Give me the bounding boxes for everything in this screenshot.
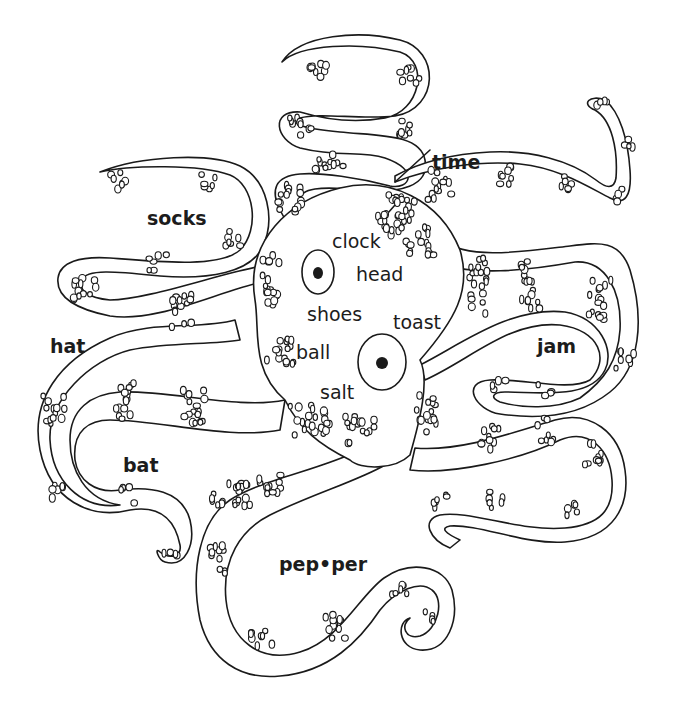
sucker	[278, 192, 283, 197]
sucker	[398, 129, 404, 137]
sucker	[431, 195, 436, 203]
sucker	[345, 420, 350, 425]
sucker	[298, 132, 304, 139]
sucker-patch	[307, 60, 329, 80]
sucker	[126, 484, 133, 491]
sucker	[497, 181, 504, 187]
sucker	[343, 413, 348, 420]
sucker	[311, 405, 315, 412]
sucker	[119, 487, 124, 494]
sucker	[407, 122, 413, 128]
sucker	[216, 502, 220, 508]
sucker	[288, 403, 292, 409]
sucker	[312, 165, 319, 172]
sucker	[201, 395, 208, 402]
sucker	[519, 264, 524, 270]
sucker	[619, 348, 623, 356]
sucker-patch	[497, 163, 514, 187]
sucker	[435, 497, 440, 503]
sucker	[536, 382, 540, 388]
sucker	[395, 199, 401, 207]
sucker	[407, 130, 412, 136]
sucker	[309, 422, 315, 430]
sucker	[500, 173, 506, 179]
label-toast: toast	[393, 313, 441, 332]
sucker	[405, 197, 410, 203]
label-clock: clock	[332, 232, 381, 251]
sucker	[292, 432, 297, 438]
sucker	[292, 206, 298, 212]
sucker	[536, 299, 540, 305]
sucker	[201, 181, 208, 186]
sucker	[276, 479, 282, 485]
sucker	[483, 310, 488, 318]
sucker	[193, 403, 200, 408]
sucker	[120, 181, 125, 188]
sucker	[289, 336, 294, 344]
sucker	[306, 412, 313, 419]
sucker	[155, 252, 161, 260]
sucker	[337, 616, 342, 624]
label-time: time	[432, 153, 480, 172]
sucker	[257, 475, 262, 483]
sucker	[614, 198, 621, 205]
sucker	[418, 416, 424, 424]
label-head: head	[356, 265, 403, 284]
sucker	[265, 356, 270, 364]
sucker	[480, 300, 485, 305]
sucker	[49, 486, 56, 493]
sucker-patch	[169, 291, 194, 330]
sucker	[480, 290, 487, 297]
sucker	[562, 178, 568, 185]
sucker	[597, 285, 603, 292]
sucker	[399, 118, 405, 124]
sucker	[111, 175, 116, 182]
sucker	[277, 338, 283, 345]
sucker	[283, 358, 289, 365]
sucker	[323, 613, 328, 621]
sucker	[525, 297, 530, 305]
sucker	[431, 416, 437, 423]
sucker	[595, 458, 601, 463]
sucker	[41, 393, 46, 399]
sucker	[487, 500, 492, 506]
sucker	[583, 461, 588, 468]
sucker	[329, 635, 334, 641]
sucker	[565, 512, 569, 519]
sucker-patch	[312, 151, 346, 174]
sucker	[399, 225, 404, 231]
sucker	[275, 199, 282, 205]
sucker	[487, 489, 493, 494]
sucker	[426, 399, 431, 405]
sucker-patch	[414, 392, 438, 435]
sucker	[277, 472, 284, 478]
sucker	[242, 502, 247, 510]
sucker	[413, 80, 419, 87]
sucker	[407, 217, 411, 223]
sucker	[182, 321, 187, 327]
sucker	[631, 350, 637, 358]
sucker	[227, 229, 233, 235]
sucker	[255, 642, 259, 650]
sucker	[210, 495, 215, 503]
sucker	[187, 296, 194, 303]
sucker	[242, 494, 249, 502]
sucker	[486, 437, 493, 444]
sucker	[330, 151, 336, 159]
sucker	[423, 224, 427, 231]
sucker	[269, 640, 275, 648]
sucker	[162, 549, 166, 557]
sucker	[347, 440, 352, 446]
sucker	[173, 550, 177, 558]
sucker	[177, 297, 182, 304]
sucker	[265, 490, 270, 496]
sucker	[297, 189, 304, 196]
sucker	[495, 377, 501, 385]
sucker	[147, 268, 151, 273]
sucker	[273, 347, 280, 353]
sucker	[126, 385, 132, 391]
sucker	[123, 397, 129, 405]
sucker-patch	[486, 489, 505, 510]
sucker	[542, 392, 549, 399]
sucker	[263, 283, 267, 288]
